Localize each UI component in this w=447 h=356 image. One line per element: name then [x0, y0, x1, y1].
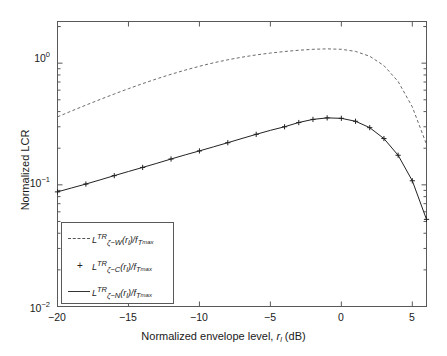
chart-legend: LTRζ−W(rl)/fTmax + LTRζ−C(rl)/fTmax LTRζ… [61, 222, 174, 304]
y-axis-label: Normalized LCR [19, 100, 31, 240]
xtick-label-2: −10 [190, 311, 208, 323]
ytick-label-1e-2: 10−2 [6, 300, 50, 314]
ytick-label-1e0: 100 [10, 50, 50, 64]
legend-entry-0: LTRζ−W(rl)/fTmax [62, 225, 175, 252]
plus-marker-sample: + [66, 259, 92, 273]
legend-label-0: LTRζ−W(rl)/fTmax [92, 233, 154, 247]
xtick-label-1: −15 [119, 311, 137, 323]
xtick-label-0: −20 [48, 311, 66, 323]
x-axis-label: Normalized envelope level, rl (dB) [0, 330, 447, 344]
xtick-label-4: 0 [338, 311, 344, 323]
legend-entry-1: + LTRζ−C(rl)/fTmax [62, 252, 175, 279]
figure-canvas: 100 10−1 10−2 −20 −15 −10 −5 0 5 Normali… [0, 0, 447, 356]
legend-label-1: LTRζ−C(rl)/fTmax [92, 260, 152, 274]
xtick-label-5: 5 [409, 311, 415, 323]
legend-label-2: LTRζ−N(rl)/fTmax [92, 286, 152, 300]
legend-entry-2: LTRζ−N(rl)/fTmax [62, 278, 175, 305]
solid-line-sample [66, 285, 92, 299]
xtick-label-3: −5 [264, 311, 276, 323]
dashed-line-sample [66, 232, 92, 246]
